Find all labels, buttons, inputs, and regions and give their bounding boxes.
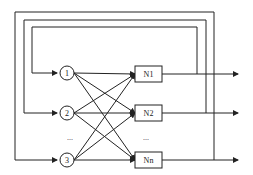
output-label-nn: Nn <box>144 156 154 165</box>
input-label-1: 1 <box>65 69 69 78</box>
input-label-3: 3 <box>65 156 69 165</box>
network-diagram: 1 2 3 ... N1 N2 Nn ... <box>0 0 253 175</box>
feedback-loop-n2 <box>24 20 206 113</box>
output-label-n2: N2 <box>144 109 154 118</box>
output-label-n1: N1 <box>144 70 154 79</box>
feedback-loop-nn <box>15 12 214 160</box>
connections <box>74 73 135 160</box>
feedback-loop-n1 <box>32 27 197 74</box>
input-ellipsis: ... <box>67 133 73 142</box>
input-label-2: 2 <box>65 109 69 118</box>
output-ellipsis: ... <box>143 133 149 142</box>
